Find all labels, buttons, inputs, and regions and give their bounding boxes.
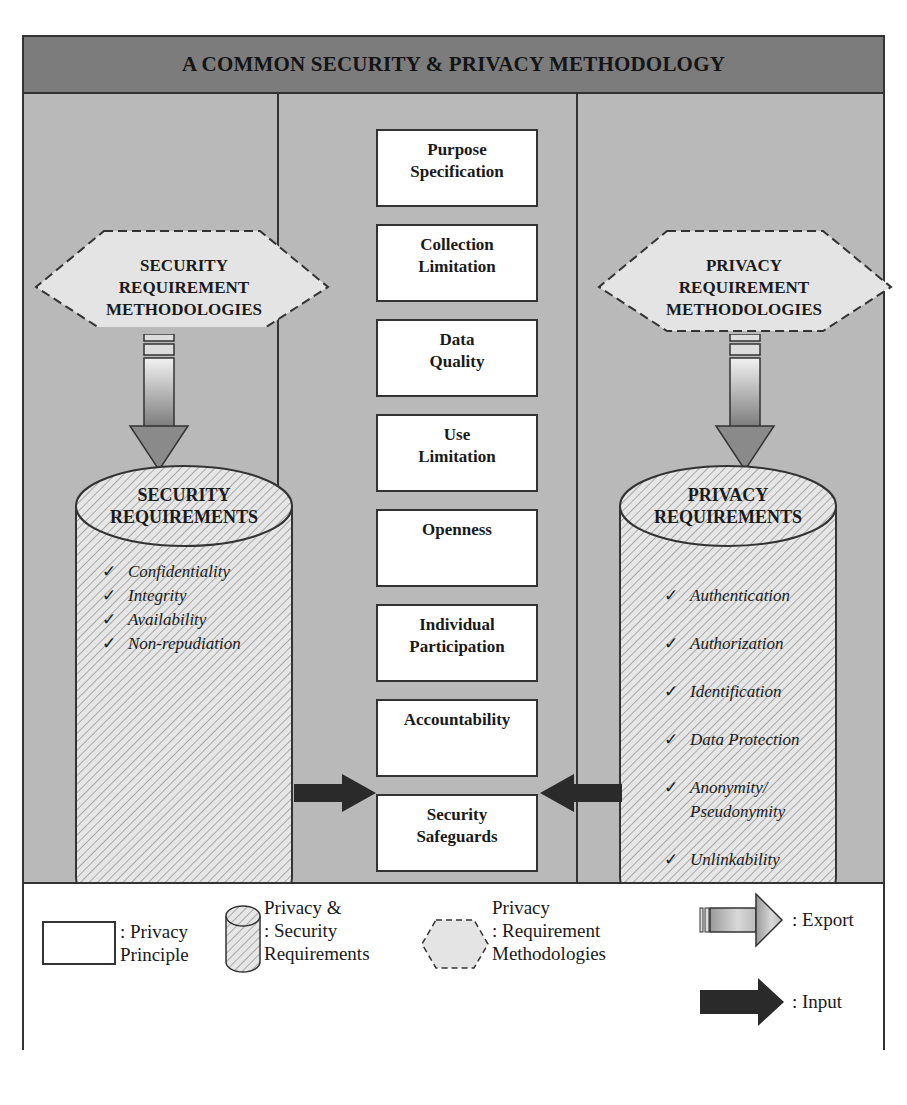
requirement-item: ✓Data Protection bbox=[664, 728, 800, 752]
requirement-item: ✓Availability bbox=[102, 608, 241, 632]
legend-requirements-label: Privacy & : Security Requirements bbox=[264, 896, 370, 965]
principle-openness: Openness bbox=[376, 509, 538, 587]
requirement-item: ✓Identification bbox=[664, 680, 800, 704]
check-icon: ✓ bbox=[664, 632, 690, 656]
security-methodology-label: SECURITY REQUIREMENT METHODOLOGIES bbox=[64, 255, 304, 321]
requirement-item: ✓Confidentiality bbox=[102, 560, 241, 584]
requirement-item: ✓Anonymity/ Pseudonymity bbox=[664, 776, 800, 824]
check-icon: ✓ bbox=[102, 560, 128, 584]
requirement-item: ✓Integrity bbox=[102, 584, 241, 608]
legend-export-label: : Export bbox=[792, 908, 854, 931]
legend: : Privacy Principle Privacy & : Security… bbox=[24, 882, 883, 1050]
principle-purpose-specification: PurposeSpecification bbox=[376, 129, 538, 207]
check-icon: ✓ bbox=[102, 632, 128, 656]
security-requirements-title: SECURITY REQUIREMENTS bbox=[76, 484, 292, 528]
requirement-item: ✓Authorization bbox=[664, 632, 800, 656]
check-icon: ✓ bbox=[102, 584, 128, 608]
check-icon: ✓ bbox=[102, 608, 128, 632]
principle-individual-participation: IndividualParticipation bbox=[376, 604, 538, 682]
legend-hexagon-icon bbox=[420, 918, 490, 970]
security-requirements-cylinder-icon bbox=[74, 464, 296, 924]
export-arrow-left-icon bbox=[128, 334, 190, 474]
diagram-title: A COMMON SECURITY & PRIVACY METHODOLOGY bbox=[182, 52, 725, 77]
principle-security-safeguards: SecuritySafeguards bbox=[376, 794, 538, 872]
legend-export-arrow-icon bbox=[698, 892, 784, 948]
legend-privacy-principle-label: : Privacy Principle bbox=[120, 920, 189, 966]
check-icon: ✓ bbox=[664, 584, 690, 608]
legend-methodologies-label: Privacy : Requirement Methodologies bbox=[492, 896, 606, 965]
requirement-item: ✓Authentication bbox=[664, 584, 800, 608]
legend-rectangle-icon bbox=[42, 921, 116, 967]
privacy-methodology-label: PRIVACY REQUIREMENT METHODOLOGIES bbox=[624, 255, 864, 321]
diagram-frame: A COMMON SECURITY & PRIVACY METHODOLOGY … bbox=[22, 35, 885, 1050]
check-icon: ✓ bbox=[664, 848, 690, 872]
legend-input-arrow-icon bbox=[698, 978, 786, 1026]
check-icon: ✓ bbox=[664, 776, 690, 824]
check-icon: ✓ bbox=[664, 680, 690, 704]
principle-data-quality: DataQuality bbox=[376, 319, 538, 397]
privacy-requirements-title: PRIVACY REQUIREMENTS bbox=[620, 484, 836, 528]
export-arrow-right-icon bbox=[714, 334, 776, 474]
principle-use-limitation: UseLimitation bbox=[376, 414, 538, 492]
diagram-title-bar: A COMMON SECURITY & PRIVACY METHODOLOGY bbox=[24, 37, 883, 94]
security-requirements-list: ✓Confidentiality ✓Integrity ✓Availabilit… bbox=[102, 560, 241, 656]
principle-accountability: Accountability bbox=[376, 699, 538, 777]
legend-cylinder-icon bbox=[224, 904, 262, 976]
check-icon: ✓ bbox=[664, 728, 690, 752]
input-arrow-right-icon bbox=[538, 772, 622, 814]
requirement-item: ✓Unlinkability bbox=[664, 848, 800, 872]
column-divider-right bbox=[576, 94, 578, 882]
principle-collection-limitation: CollectionLimitation bbox=[376, 224, 538, 302]
legend-input-label: : Input bbox=[792, 990, 842, 1013]
input-arrow-left-icon bbox=[294, 772, 378, 814]
requirement-item: ✓Non-repudiation bbox=[102, 632, 241, 656]
diagram-body: SECURITY REQUIREMENT METHODOLOGIES SECUR… bbox=[24, 94, 883, 882]
